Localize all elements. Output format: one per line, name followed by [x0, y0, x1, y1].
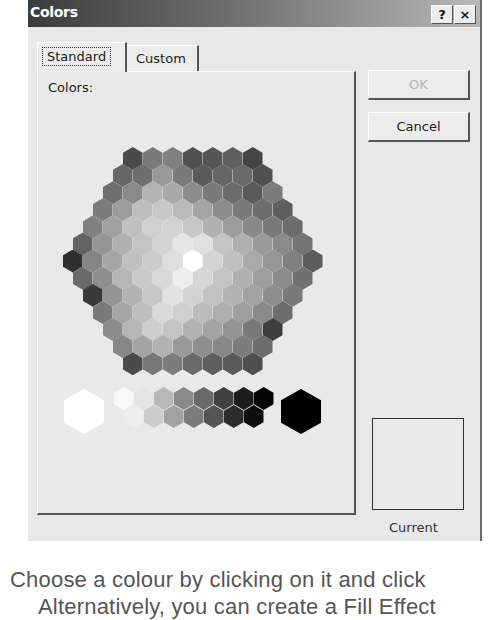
ok-button[interactable]: OK — [368, 70, 470, 100]
close-button[interactable]: × — [454, 5, 476, 24]
cancel-button[interactable]: Cancel — [368, 112, 470, 142]
caption-line-1: Choose a colour by clicking on it and cl… — [10, 567, 426, 593]
help-button[interactable]: ? — [431, 5, 453, 24]
title-bar[interactable]: Colors ? × — [28, 0, 480, 27]
dialog-title: Colors — [30, 4, 78, 20]
color-preview-swatch — [372, 418, 464, 510]
tab-custom-label: Custom — [136, 51, 186, 66]
current-color-label: Current — [389, 520, 438, 535]
tab-standard[interactable]: Standard — [37, 42, 127, 72]
colors-label: Colors: — [48, 80, 93, 95]
tab-custom[interactable]: Custom — [127, 45, 199, 71]
tab-standard-label: Standard — [42, 47, 111, 66]
caption-line-2: Alternatively, you can create a Fill Eff… — [38, 594, 436, 620]
